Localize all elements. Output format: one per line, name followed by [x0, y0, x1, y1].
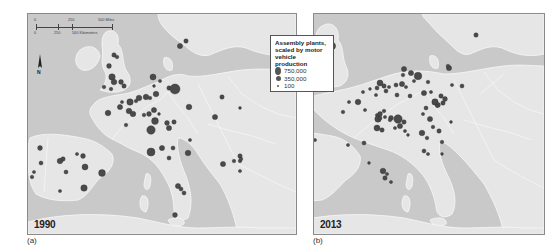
plant-marker — [440, 140, 444, 144]
scale-miles-0: 0 — [34, 18, 36, 22]
plant-marker — [184, 39, 188, 43]
legend-entry-medium: 350,000 — [275, 75, 329, 83]
plant-marker — [158, 79, 161, 82]
north-arrow: N — [35, 54, 45, 78]
plant-marker — [166, 125, 171, 130]
scale-tick — [36, 24, 37, 30]
plant-marker — [408, 94, 412, 98]
plant-marker — [179, 187, 183, 191]
plant-marker — [239, 107, 242, 110]
plant-marker — [421, 90, 426, 95]
plant-marker — [143, 94, 149, 100]
plant-marker — [384, 89, 388, 93]
plant-marker — [374, 93, 377, 96]
plant-marker — [151, 107, 156, 112]
plant-marker — [188, 138, 191, 141]
plant-marker — [238, 169, 241, 172]
plant-marker — [355, 99, 361, 105]
plant-marker — [441, 153, 444, 156]
plant-marker — [382, 109, 386, 113]
scale-km-0: 0 — [34, 31, 36, 35]
plant-marker — [378, 112, 383, 117]
plant-marker — [412, 79, 415, 82]
scale-tick — [112, 24, 113, 30]
plant-marker — [399, 81, 404, 86]
plant-marker — [435, 104, 438, 107]
legend-label-large: 750,000 — [284, 67, 306, 74]
plant-marker — [427, 116, 432, 121]
plant-marker — [314, 138, 317, 141]
plant-marker — [172, 120, 176, 124]
plant-marker — [426, 152, 429, 155]
plant-marker — [450, 83, 453, 86]
legend-entry-small: 100 — [275, 82, 329, 90]
plant-marker — [147, 148, 155, 156]
plant-marker — [368, 162, 371, 165]
plant-marker — [443, 97, 448, 102]
plant-marker — [414, 72, 422, 80]
plant-marker — [111, 79, 117, 85]
plant-marker — [158, 113, 161, 116]
map-legend: Assembly plants, scaled by motor vehicle… — [270, 35, 334, 92]
plant-marker — [119, 80, 124, 85]
plant-marker — [30, 175, 34, 179]
circle-large-icon — [275, 67, 281, 75]
plant-marker — [401, 66, 406, 71]
year-label-1990: 1990 — [34, 219, 55, 230]
scale-tick — [72, 24, 73, 30]
plant-marker — [375, 86, 379, 90]
legend-label-small: 100 — [284, 82, 294, 89]
plant-marker — [439, 94, 443, 98]
plant-marker — [182, 191, 186, 195]
plant-marker — [81, 185, 87, 191]
legend-title-line-3: vehicle production — [275, 53, 329, 67]
scale-tick — [58, 24, 59, 30]
plant-marker — [117, 104, 122, 109]
plant-marker — [185, 150, 191, 156]
plant-marker — [446, 64, 450, 68]
plant-marker — [429, 90, 432, 93]
plant-marker — [341, 110, 345, 114]
plant-marker — [39, 161, 43, 165]
plant-marker — [170, 84, 180, 94]
panel-caption-b: (b) — [313, 236, 323, 245]
plant-marker — [383, 176, 387, 180]
plant-marker — [124, 123, 128, 127]
plant-marker — [153, 91, 159, 97]
plant-marker — [109, 87, 113, 91]
plant-marker — [134, 99, 138, 103]
plant-marker — [394, 83, 398, 87]
plant-marker — [61, 157, 65, 161]
plant-marker — [431, 125, 435, 129]
plant-marker — [82, 164, 88, 170]
plant-marker — [102, 85, 106, 89]
plant-marker — [421, 112, 424, 115]
plant-marker — [419, 130, 425, 136]
plant-marker — [171, 146, 175, 150]
plant-marker — [402, 120, 406, 124]
plant-marker — [380, 168, 386, 174]
plant-marker — [165, 121, 170, 126]
north-label: N — [37, 69, 41, 75]
plant-marker — [38, 146, 43, 151]
plant-marker — [152, 118, 159, 125]
map-canvas-2013 — [314, 14, 544, 234]
map-canvas-1990 — [28, 14, 296, 234]
scale-km-250: 250 — [54, 31, 60, 35]
plant-marker — [167, 156, 171, 160]
plant-marker — [403, 129, 406, 132]
plant-marker — [212, 114, 217, 119]
plant-marker — [425, 136, 429, 140]
panel-caption-a: (a) — [27, 236, 37, 245]
plant-marker — [369, 88, 372, 91]
plant-marker — [380, 128, 384, 132]
plant-marker — [130, 111, 136, 117]
plant-marker — [120, 100, 123, 103]
plant-marker — [127, 99, 133, 105]
plant-marker — [393, 126, 396, 129]
plant-marker — [460, 84, 464, 88]
scale-km-500: 500 Kilometers — [72, 31, 97, 35]
plant-marker — [394, 115, 402, 123]
plant-marker — [142, 113, 146, 117]
plant-marker — [426, 80, 430, 84]
